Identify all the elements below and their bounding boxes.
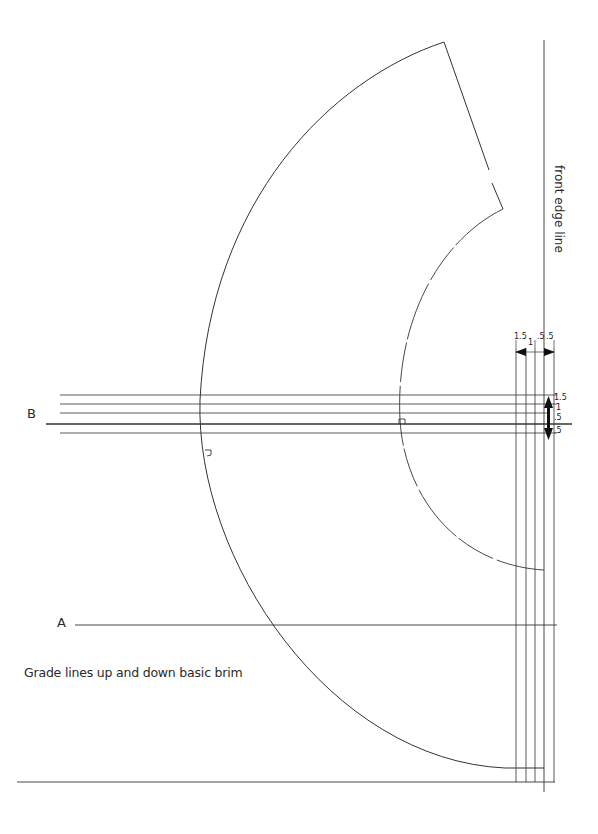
dim-label: 1.5 <box>554 393 567 402</box>
arrow-up-icon <box>544 396 553 408</box>
caption: Grade lines up and down basic brim <box>24 665 243 680</box>
dim-label: 1 <box>528 338 533 347</box>
arrow-down-icon <box>544 428 553 440</box>
dim-label: .5 <box>554 426 562 435</box>
brim-side-edge <box>444 42 489 170</box>
brim-pattern-diagram <box>0 0 598 834</box>
dim-label: 1 <box>556 403 561 412</box>
front-edge-label: front edge line <box>552 165 566 253</box>
brim-side-edge-lower <box>492 183 503 209</box>
dim-label: .5 <box>546 332 554 341</box>
dim-label: .5 <box>537 332 545 341</box>
arrow-left-icon <box>515 348 526 356</box>
dim-label: .5 <box>554 413 562 422</box>
horizontal-grade-lines <box>60 395 557 433</box>
inner-brim-edge <box>400 209 544 570</box>
outer-notch <box>205 450 211 456</box>
outer-brim-edge <box>200 42 544 768</box>
dim-label: 1.5 <box>514 332 527 341</box>
line-a-label: A <box>57 615 66 630</box>
arrow-right-icon <box>544 348 555 356</box>
line-b-label: B <box>27 406 36 421</box>
